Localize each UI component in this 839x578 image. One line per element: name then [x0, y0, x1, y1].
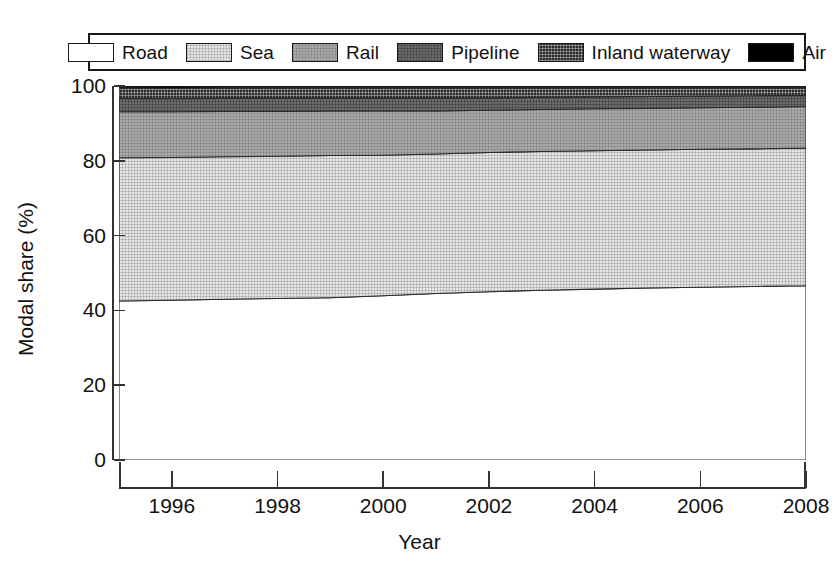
x-tick-label: 2000 [338, 495, 428, 516]
x-tick [488, 471, 490, 488]
chart-figure: RoadSeaRailPipelineInland waterwayAir 02… [0, 0, 839, 578]
y-tick-label: 40 [42, 299, 106, 320]
y-tick [114, 310, 125, 312]
x-tick [382, 471, 384, 488]
y-tick [114, 235, 125, 237]
x-tick-label: 2002 [444, 495, 534, 516]
x-tick-label: 2008 [761, 495, 839, 516]
y-tick-label: 20 [42, 374, 106, 395]
legend-swatch-inland-waterway [538, 43, 584, 62]
legend-swatch-pipeline [397, 43, 443, 62]
legend-item-pipeline[interactable]: Pipeline [397, 43, 519, 62]
legend-label: Rail [346, 43, 379, 62]
x-tick-label: 1998 [233, 495, 323, 516]
y-tick [114, 85, 125, 87]
x-tick [171, 471, 173, 488]
y-tick-label: 60 [42, 225, 106, 246]
y-tick [114, 459, 125, 461]
x-tick-label: 2004 [550, 495, 640, 516]
legend-label: Inland waterway [592, 43, 731, 62]
x-axis-line [119, 487, 806, 489]
legend-label: Pipeline [451, 43, 519, 62]
y-tick-label: 0 [42, 449, 106, 470]
legend-item-inland-waterway[interactable]: Inland waterway [538, 43, 731, 62]
x-tick [805, 471, 807, 488]
x-tick-label: 2006 [655, 495, 745, 516]
x-tick [277, 471, 279, 488]
legend-label: Road [122, 43, 168, 62]
legend-label: Air [802, 43, 826, 62]
legend-swatch-air [748, 43, 794, 62]
area-air [119, 86, 806, 88]
legend-item-rail[interactable]: Rail [292, 43, 379, 62]
x-axis-left-cap [119, 462, 121, 488]
x-axis-title: Year [0, 531, 839, 553]
x-tick [594, 471, 596, 488]
stacked-area-series [119, 86, 806, 460]
y-axis-title: Modal share (%) [15, 149, 37, 409]
legend-item-air[interactable]: Air [748, 43, 826, 62]
y-axis-tick-labels: 020406080100 [34, 0, 106, 578]
area-road [119, 286, 806, 460]
plot-area [119, 86, 806, 460]
y-tick [114, 160, 125, 162]
legend-swatch-rail [292, 43, 338, 62]
x-tick [700, 471, 702, 488]
legend-swatch-sea [186, 43, 232, 62]
legend-item-sea[interactable]: Sea [186, 43, 274, 62]
y-tick-label: 80 [42, 150, 106, 171]
y-tick-label: 100 [42, 75, 106, 96]
area-sea [119, 148, 806, 301]
y-axis-line [112, 86, 114, 460]
x-tick-label: 1996 [127, 495, 217, 516]
chart-legend: RoadSeaRailPipelineInland waterwayAir [88, 33, 806, 71]
legend-label: Sea [240, 43, 274, 62]
y-tick [114, 384, 125, 386]
